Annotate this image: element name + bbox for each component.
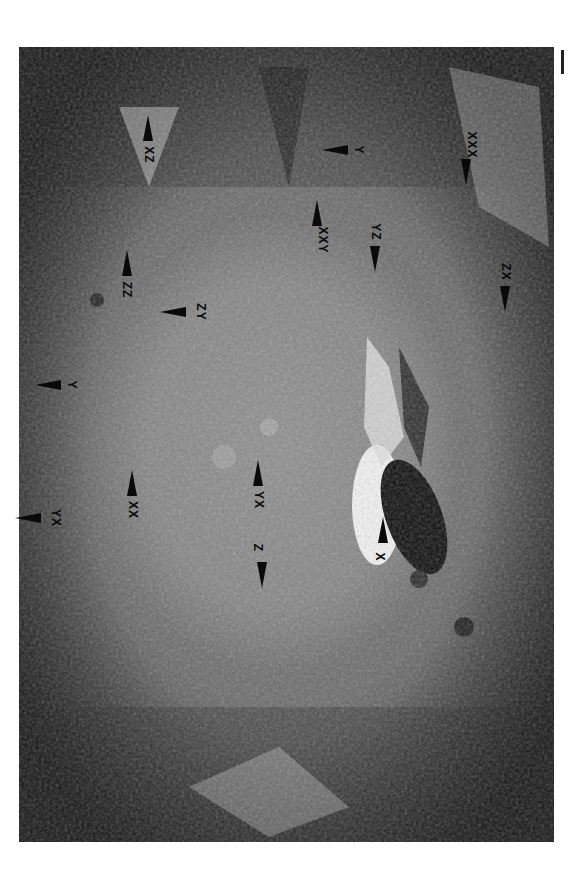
arrow-icon xyxy=(127,470,137,496)
arrow-icon xyxy=(500,286,510,312)
arrow-icon xyxy=(461,159,471,185)
label-y-left: Y xyxy=(65,380,79,389)
arrow-icon xyxy=(160,307,186,317)
arrow-icon xyxy=(312,200,322,226)
arrow-icon xyxy=(370,246,380,272)
arrow-icon xyxy=(253,460,263,486)
label-xx: XX xyxy=(126,501,140,519)
label-xxy: XXY xyxy=(316,226,330,253)
label-y-right: Y xyxy=(352,145,366,154)
label-yx-left: YX xyxy=(49,509,63,527)
arrow-icon xyxy=(143,115,153,141)
label-x: X xyxy=(373,552,387,561)
arrow-icon xyxy=(122,250,132,276)
label-z: Z xyxy=(251,544,265,552)
arrow-icon xyxy=(35,380,61,390)
crater-terrain xyxy=(19,47,554,842)
arrow-icon xyxy=(257,562,267,588)
label-yz: YZ xyxy=(369,223,383,240)
label-zx: ZX xyxy=(499,263,513,280)
label-xxx: XXX xyxy=(465,131,479,158)
scale-bar xyxy=(561,50,564,74)
lunar-photo xyxy=(19,47,554,842)
label-xz: XZ xyxy=(142,146,156,163)
arrow-icon xyxy=(15,513,41,523)
label-zz: ZZ xyxy=(120,282,134,299)
arrow-icon xyxy=(322,145,348,155)
label-yx-center: YX xyxy=(252,491,266,509)
label-zy: ZY xyxy=(194,303,208,320)
arrow-icon xyxy=(378,517,388,543)
